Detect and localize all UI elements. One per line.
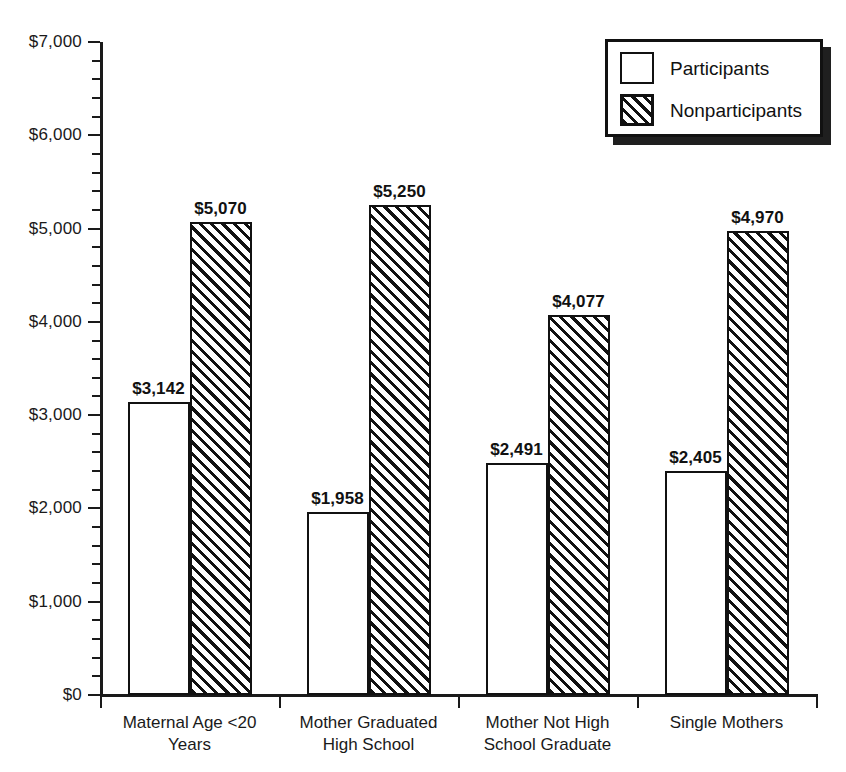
bar-participants (665, 471, 727, 695)
x-axis-category-label: Single Mothers (631, 712, 822, 734)
y-axis-tick-minor (92, 638, 100, 640)
bar-chart: $0$1,000$2,000$3,000$4,000$5,000$6,000$7… (0, 0, 846, 772)
y-axis-tick-major (88, 601, 100, 603)
bar-participants (486, 463, 548, 695)
y-axis-line (100, 42, 103, 696)
x-axis-category-label-line: School Graduate (452, 734, 643, 756)
y-axis-tick-major (88, 134, 100, 136)
y-axis-tick-label: $1,000 (0, 593, 82, 610)
y-axis-tick-major (88, 694, 100, 696)
x-axis-group-separator (279, 694, 281, 708)
y-axis-tick-minor (92, 358, 100, 360)
bar-value-label: $5,250 (349, 182, 451, 202)
legend: Participants Nonparticipants (605, 39, 823, 137)
legend-label-participants: Participants (670, 59, 769, 78)
y-axis-tick-label: $6,000 (0, 126, 82, 143)
bar-nonparticipants (727, 231, 789, 695)
x-axis-category-label: Mother GraduatedHigh School (273, 712, 464, 756)
y-axis-tick-minor (92, 675, 100, 677)
y-axis-tick-minor (92, 451, 100, 453)
bar-nonparticipants (190, 222, 252, 695)
y-axis-tick-major (88, 507, 100, 509)
y-axis-tick-major (88, 228, 100, 230)
legend-swatch-participants-icon (620, 52, 654, 84)
y-axis-tick-major (88, 321, 100, 323)
y-axis-tick-minor (92, 526, 100, 528)
y-axis-tick-minor (92, 433, 100, 435)
y-axis-tick-label: $2,000 (0, 499, 82, 516)
y-axis-tick-minor (92, 470, 100, 472)
y-axis-tick-major (88, 414, 100, 416)
bar-nonparticipants (369, 205, 431, 695)
x-axis-category-label-line: High School (273, 734, 464, 756)
y-axis-tick-minor (92, 563, 100, 565)
x-axis-category-label: Mother Not HighSchool Graduate (452, 712, 643, 756)
y-axis-tick-minor (92, 545, 100, 547)
x-axis-category-label-line: Mother Not High (452, 712, 643, 734)
y-axis-tick-minor (92, 489, 100, 491)
x-axis-group-separator (637, 694, 639, 708)
x-axis-category-label-line: Single Mothers (631, 712, 822, 734)
y-axis-tick-minor (92, 97, 100, 99)
y-axis-tick-minor (92, 340, 100, 342)
legend-entry-participants: Participants (620, 50, 769, 86)
y-axis-tick-label: $5,000 (0, 220, 82, 237)
legend-label-nonparticipants: Nonparticipants (670, 101, 802, 120)
y-axis-tick-minor (92, 78, 100, 80)
y-axis-tick-label: $4,000 (0, 313, 82, 330)
y-axis-tick-minor (92, 172, 100, 174)
y-axis-tick-minor (92, 657, 100, 659)
x-axis-category-label-line: Mother Graduated (273, 712, 464, 734)
legend-entry-nonparticipants: Nonparticipants (620, 92, 802, 128)
y-axis-tick-minor (92, 209, 100, 211)
y-axis-tick-minor (92, 153, 100, 155)
x-axis-category-label-line: Maternal Age <20 (94, 712, 285, 734)
y-axis-tick-minor (92, 246, 100, 248)
y-axis-tick-major (88, 41, 100, 43)
y-axis-tick-minor (92, 395, 100, 397)
y-axis-tick-label: $0 (0, 686, 82, 703)
y-axis-tick-minor (92, 582, 100, 584)
y-axis-tick-minor (92, 116, 100, 118)
x-axis-group-separator (816, 694, 818, 708)
y-axis-tick-label: $3,000 (0, 406, 82, 423)
y-axis-tick-minor (92, 190, 100, 192)
legend-swatch-nonparticipants-icon (620, 94, 654, 126)
bar-participants (307, 512, 369, 695)
y-axis-tick-minor (92, 265, 100, 267)
x-axis-category-label: Maternal Age <20Years (94, 712, 285, 756)
bar-nonparticipants (548, 315, 610, 695)
y-axis-tick-minor (92, 284, 100, 286)
bar-participants (128, 402, 190, 695)
y-axis-tick-minor (92, 302, 100, 304)
y-axis-tick-minor (92, 377, 100, 379)
y-axis-tick-minor (92, 60, 100, 62)
x-axis-group-separator (458, 694, 460, 708)
bar-value-label: $5,070 (170, 199, 272, 219)
bar-value-label: $4,077 (528, 292, 630, 312)
y-axis-tick-label: $7,000 (0, 33, 82, 50)
bar-value-label: $4,970 (707, 208, 809, 228)
x-axis-category-label-line: Years (94, 734, 285, 756)
x-axis-group-separator (100, 694, 102, 708)
y-axis-tick-minor (92, 619, 100, 621)
